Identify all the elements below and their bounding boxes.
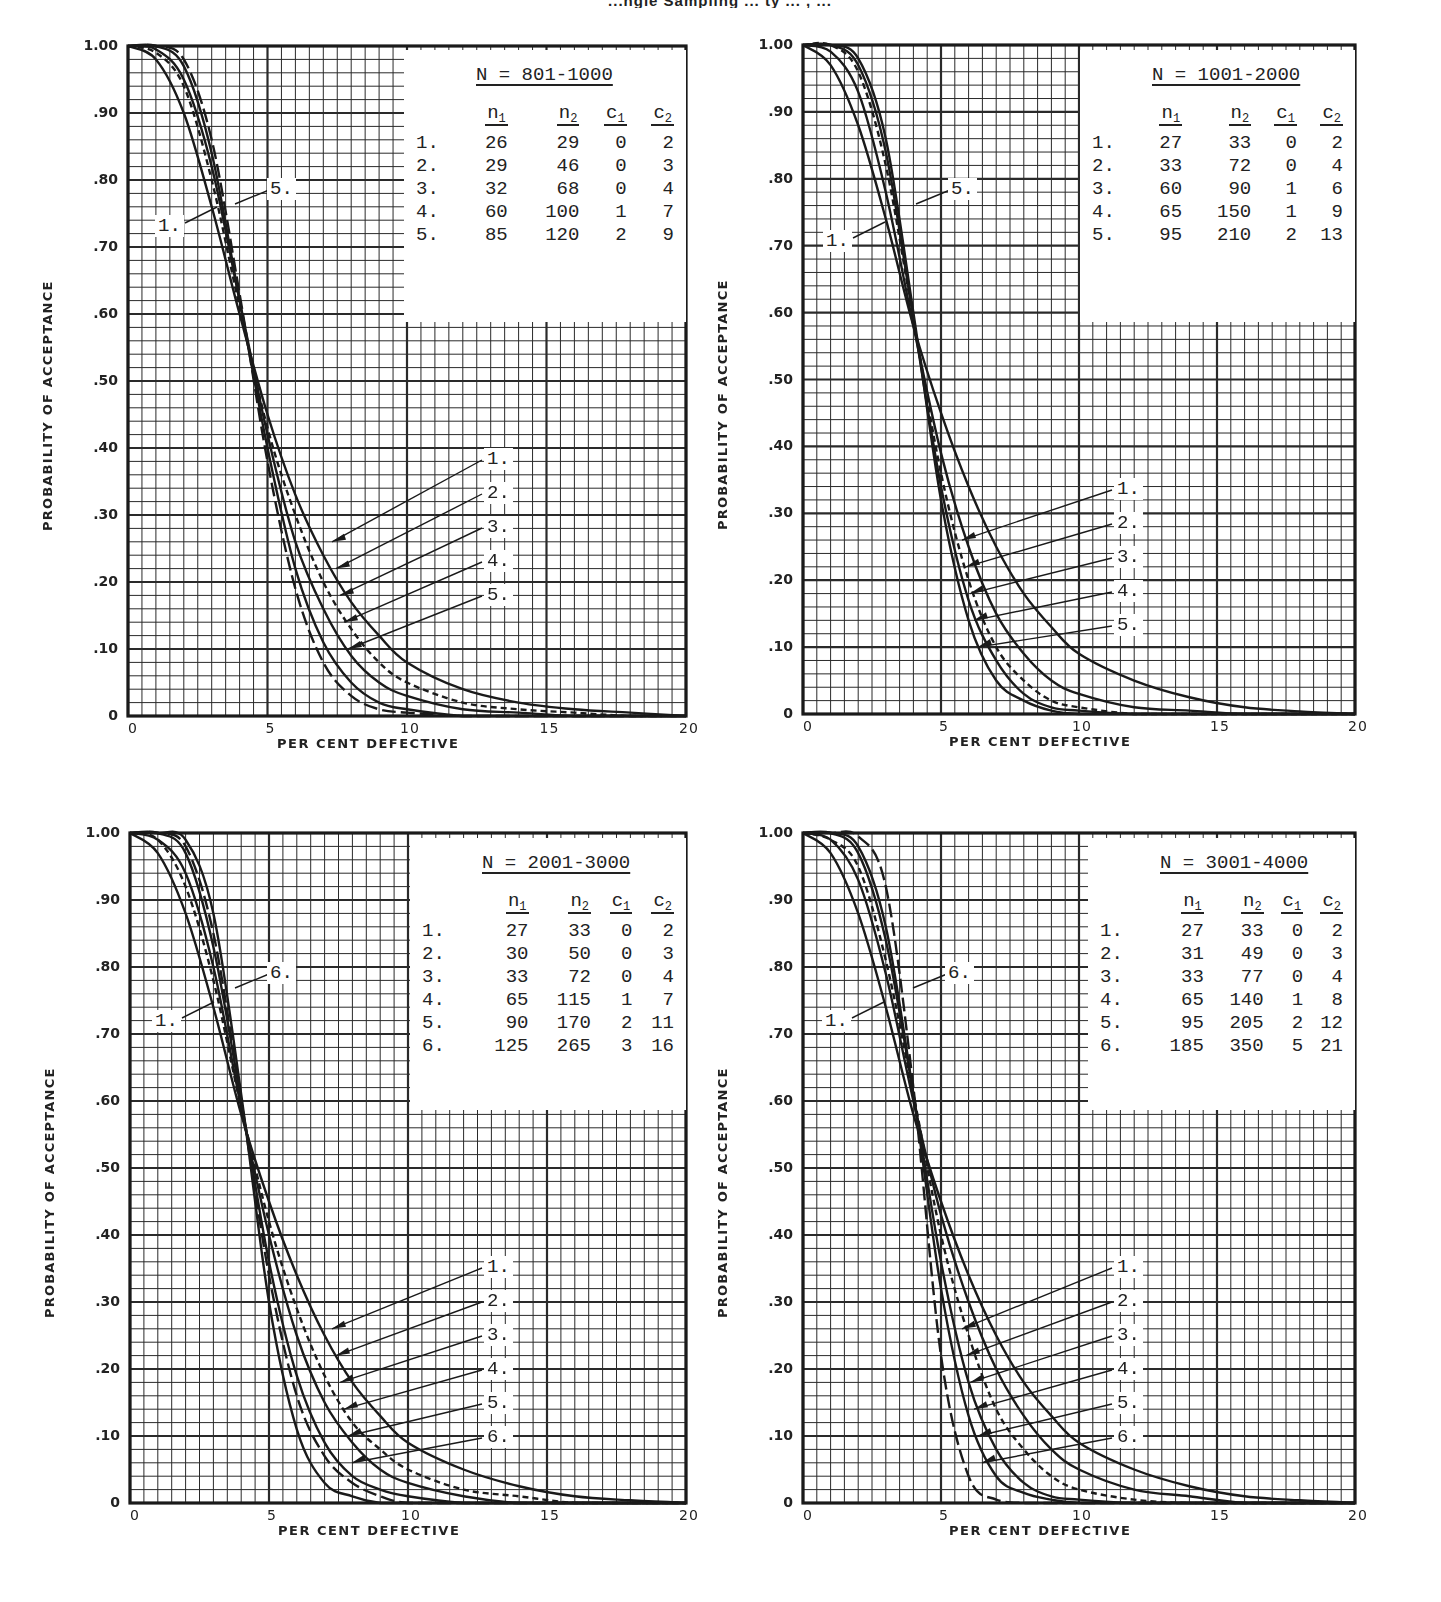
x-tick-label: 5 [929, 1507, 959, 1523]
curve-label-6: 6. [1114, 1426, 1143, 1448]
legend-box: N = 2001-3000n1n2c1c21.2733022.3050033.3… [410, 838, 686, 1110]
plan-row: 1.262902 [416, 132, 674, 155]
y-tick-label: .20 [80, 1360, 120, 1376]
curve-label-1: 1. [484, 1256, 513, 1278]
y-axis-label: PROBABILITY OF ACCEPTANCE [715, 279, 730, 529]
y-tick-label: .10 [753, 1427, 793, 1443]
plan-row: 5.95210213 [1092, 224, 1343, 247]
plan-row: 4.6511517 [422, 989, 674, 1012]
header-n2: n2 [529, 890, 592, 920]
x-axis-label: PER CENT DEFECTIVE [277, 736, 459, 751]
legend-title: N = 1001-2000 [1152, 64, 1300, 86]
plan-row: 3.326804 [416, 178, 674, 201]
y-tick-label: .70 [80, 1025, 120, 1041]
plan-row: 4.6010017 [416, 201, 674, 224]
plan-row: 3.609016 [1092, 178, 1343, 201]
legend-title: N = 3001-4000 [1160, 852, 1308, 874]
y-tick-label: 1.00 [78, 37, 118, 53]
plan-row: 4.6514018 [1100, 989, 1343, 1012]
header-n2: n2 [508, 102, 580, 132]
header-c1: c1 [579, 102, 626, 132]
y-tick-label: .70 [753, 237, 793, 253]
curve-label-2: 2. [484, 1290, 513, 1312]
x-axis-label: PER CENT DEFECTIVE [278, 1523, 460, 1538]
x-tick-label: 10 [396, 1507, 426, 1523]
y-tick-label: .70 [78, 238, 118, 254]
y-tick-label: .80 [78, 171, 118, 187]
plan-row: 6.185350521 [1100, 1035, 1343, 1058]
x-tick-label: 0 [118, 720, 148, 736]
curve-label-4: 4. [1114, 580, 1143, 602]
y-tick-label: .10 [80, 1427, 120, 1443]
sampling-plan-table: n1n2c1c21.2733022.3149033.3377044.651401… [1100, 890, 1343, 1058]
header-n2: n2 [1204, 890, 1264, 920]
x-tick-label: 0 [793, 718, 823, 734]
y-tick-label: .40 [753, 1226, 793, 1242]
y-axis-label: PROBABILITY OF ACCEPTANCE [715, 1068, 730, 1318]
plan-row: 1.273302 [1092, 132, 1343, 155]
y-tick-label: 0 [753, 1494, 793, 1510]
curve-label-1: 1. [1114, 1256, 1143, 1278]
sampling-plan-table: n1n2c1c21.2733022.3050033.3372044.651151… [422, 890, 674, 1058]
x-tick-label: 20 [674, 720, 704, 736]
y-tick-label: .60 [80, 1092, 120, 1108]
curve-label-upper-1: 1. [823, 230, 852, 252]
plan-row: 2.337204 [1092, 155, 1343, 178]
y-tick-label: .50 [753, 371, 793, 387]
page-title-fragment: ...ngle Sampling ... ty ... , ... [300, 0, 1140, 8]
x-tick-label: 0 [793, 1507, 823, 1523]
curve-label-3: 3. [484, 516, 513, 538]
header-n1: n1 [1136, 102, 1182, 132]
curve-label-2: 2. [1114, 1290, 1143, 1312]
plan-row: 6.125265316 [422, 1035, 674, 1058]
curve-label-upper-last: 5. [267, 178, 296, 200]
y-tick-label: .30 [78, 506, 118, 522]
y-tick-label: .60 [753, 1092, 793, 1108]
x-tick-label: 20 [1343, 1507, 1373, 1523]
plan-row: 3.337204 [422, 966, 674, 989]
y-tick-label: .10 [78, 640, 118, 656]
y-tick-label: .20 [753, 1360, 793, 1376]
curve-label-5: 5. [1114, 614, 1143, 636]
x-tick-label: 15 [535, 1507, 565, 1523]
y-tick-label: 0 [80, 1494, 120, 1510]
curve-label-4: 4. [484, 1358, 513, 1380]
x-axis-label: PER CENT DEFECTIVE [949, 734, 1131, 749]
curve-label-6: 6. [484, 1426, 513, 1448]
plan-row: 2.314903 [1100, 943, 1343, 966]
y-tick-label: 1.00 [753, 36, 793, 52]
curve-label-4: 4. [1114, 1358, 1143, 1380]
y-tick-label: .10 [753, 638, 793, 654]
y-tick-label: .20 [753, 571, 793, 587]
y-tick-label: 0 [753, 705, 793, 721]
y-tick-label: .80 [753, 958, 793, 974]
x-tick-label: 15 [535, 720, 565, 736]
y-tick-label: .60 [78, 305, 118, 321]
sampling-plan-table: n1n2c1c21.2733022.3372043.6090164.651501… [1092, 102, 1343, 247]
x-tick-label: 20 [1343, 718, 1373, 734]
y-tick-label: .40 [78, 439, 118, 455]
y-tick-label: .50 [753, 1159, 793, 1175]
curve-label-3: 3. [484, 1324, 513, 1346]
header-c2: c2 [632, 890, 674, 920]
x-tick-label: 5 [929, 718, 959, 734]
y-tick-label: .60 [753, 304, 793, 320]
curve-label-3: 3. [1114, 1324, 1143, 1346]
curve-label-upper-1: 1. [822, 1010, 851, 1032]
curve-label-1: 1. [1114, 478, 1143, 500]
plan-row: 2.294603 [416, 155, 674, 178]
header-n1: n1 [1144, 890, 1204, 920]
y-tick-label: 1.00 [753, 824, 793, 840]
legend-title: N = 2001-3000 [482, 852, 630, 874]
curve-label-upper-last: 5. [948, 178, 977, 200]
x-tick-label: 5 [257, 1507, 287, 1523]
plan-row: 1.273302 [422, 920, 674, 943]
curve-label-1: 1. [484, 448, 513, 470]
header-n1: n1 [466, 890, 529, 920]
curve-label-5: 5. [484, 1392, 513, 1414]
plan-row: 5.90170211 [422, 1012, 674, 1035]
header-c2: c2 [1303, 890, 1343, 920]
y-tick-label: .50 [78, 372, 118, 388]
x-tick-label: 5 [256, 720, 286, 736]
y-tick-label: .30 [753, 1293, 793, 1309]
